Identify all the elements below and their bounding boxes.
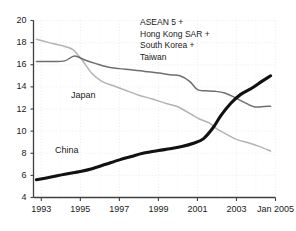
y-tick-label: 18 bbox=[11, 38, 27, 47]
y-tick-label: 20 bbox=[11, 16, 27, 25]
y-tick-label: 14 bbox=[11, 82, 27, 91]
x-tick-label: Jan 2005 bbox=[253, 205, 296, 214]
y-tick-label: 12 bbox=[11, 105, 27, 114]
y-tick-label: 6 bbox=[11, 171, 27, 180]
series-label-china: China bbox=[55, 146, 79, 155]
y-tick-label: 10 bbox=[11, 127, 27, 136]
annotation-line-4: Taiwan bbox=[140, 52, 210, 64]
y-tick-label: 8 bbox=[11, 149, 27, 158]
y-tick-label: 16 bbox=[11, 60, 27, 69]
annotation-line-2: Hong Kong SAR + bbox=[140, 29, 210, 41]
asean-group-annotation: ASEAN 5 + Hong Kong SAR + South Korea + … bbox=[140, 17, 210, 63]
annotation-line-1: ASEAN 5 + bbox=[140, 17, 210, 29]
annotation-line-3: South Korea + bbox=[140, 40, 210, 52]
series-label-japan: Japan bbox=[71, 91, 96, 100]
y-tick-label: 4 bbox=[11, 193, 27, 202]
chart-container: 201816141210864 199319951997199920012003… bbox=[0, 0, 295, 231]
